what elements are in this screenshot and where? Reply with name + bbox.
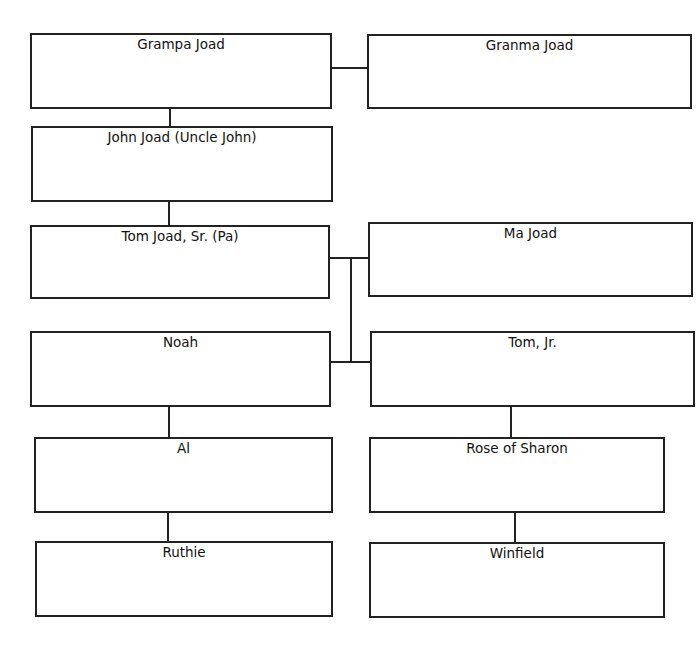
node-ma-joad: Ma Joad	[368, 222, 693, 297]
node-label: Winfield	[371, 545, 663, 561]
connector-vertical-family	[350, 257, 352, 363]
node-label: Noah	[32, 334, 329, 350]
connector-grampa-john	[169, 107, 171, 127]
node-label: Ruthie	[37, 544, 331, 560]
node-al: Al	[34, 437, 333, 513]
node-granma-joad: Granma Joad	[367, 34, 692, 109]
connector-john-pa	[168, 200, 170, 226]
connector-rose-winfield	[514, 511, 516, 543]
node-label: Granma Joad	[369, 37, 690, 53]
node-uncle-john: John Joad (Uncle John)	[31, 126, 333, 202]
connector-noah-al	[168, 405, 170, 438]
node-ruthie: Ruthie	[35, 541, 333, 617]
node-label: Ma Joad	[370, 225, 691, 241]
node-grampa-joad: Grampa Joad	[30, 33, 332, 109]
node-tom-jr: Tom, Jr.	[370, 331, 695, 407]
node-label: Rose of Sharon	[371, 440, 663, 456]
node-label: Tom Joad, Sr. (Pa)	[32, 228, 328, 244]
connector-al-ruthie	[167, 511, 169, 543]
node-pa: Tom Joad, Sr. (Pa)	[30, 225, 330, 299]
node-label: Al	[36, 440, 331, 456]
node-rose-of-sharon: Rose of Sharon	[369, 437, 665, 513]
node-winfield: Winfield	[369, 542, 665, 618]
node-label: Grampa Joad	[32, 36, 330, 52]
connector-noah-tomjr	[330, 361, 372, 363]
node-label: John Joad (Uncle John)	[33, 129, 331, 145]
node-noah: Noah	[30, 331, 331, 407]
connector-pa-ma	[329, 257, 369, 259]
node-label: Tom, Jr.	[372, 334, 693, 350]
connector-tomjr-rose	[510, 405, 512, 438]
connector-grampa-granma	[331, 67, 368, 69]
